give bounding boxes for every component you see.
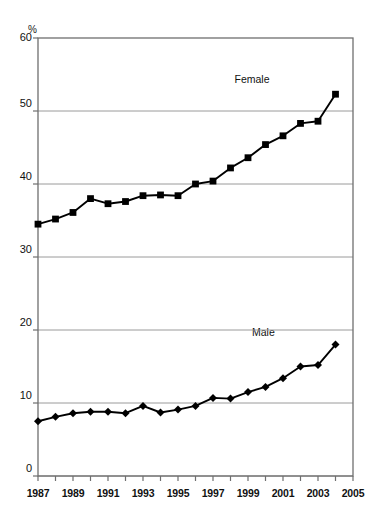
marker-female-1999 [245, 154, 252, 161]
marker-female-2002 [297, 120, 304, 127]
series-line-male [38, 345, 336, 422]
marker-female-1994 [157, 192, 164, 199]
marker-female-1993 [140, 192, 147, 199]
marker-male-2000 [262, 383, 270, 391]
marker-male-1987 [34, 417, 42, 425]
marker-female-1987 [35, 221, 42, 228]
marker-female-1991 [105, 200, 112, 207]
marker-female-1996 [192, 181, 199, 188]
marker-female-2003 [315, 118, 322, 125]
marker-male-1999 [244, 388, 252, 396]
series-line-female [38, 94, 336, 224]
marker-female-2001 [280, 132, 287, 139]
plot-area [0, 0, 381, 523]
marker-male-1991 [104, 408, 112, 416]
marker-female-1990 [87, 195, 94, 202]
marker-female-1989 [70, 209, 77, 216]
marker-male-1995 [174, 406, 182, 414]
line-chart: % 60 50 40 30 20 10 0 1987 1989 1991 199… [0, 0, 381, 523]
marker-male-1988 [52, 413, 60, 421]
marker-female-1992 [122, 198, 129, 205]
marker-female-2004 [332, 91, 339, 98]
marker-female-1988 [52, 216, 59, 223]
marker-male-1997 [209, 394, 217, 402]
marker-male-1990 [87, 408, 95, 416]
marker-male-1994 [157, 408, 165, 416]
marker-female-1998 [227, 165, 234, 172]
marker-male-1989 [69, 409, 77, 417]
marker-female-2000 [262, 141, 269, 148]
marker-male-1992 [122, 409, 130, 417]
marker-female-1997 [210, 178, 217, 185]
marker-female-1995 [175, 192, 182, 199]
marker-male-1998 [227, 395, 235, 403]
